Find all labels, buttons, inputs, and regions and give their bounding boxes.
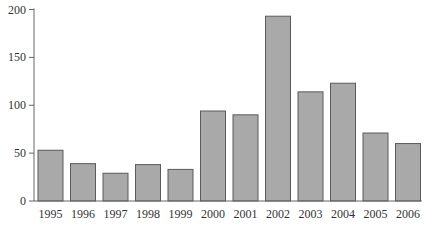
x-axis: 1995199619971998199920002001200220032004… bbox=[34, 201, 422, 221]
x-tick-label: 2003 bbox=[299, 207, 323, 221]
x-tick-label: 2000 bbox=[201, 207, 225, 221]
x-tick-label: 1996 bbox=[71, 207, 95, 221]
y-tick-label: 100 bbox=[8, 98, 26, 112]
bar-1996 bbox=[71, 164, 96, 201]
y-tick-label: 200 bbox=[8, 3, 26, 17]
bar-2005 bbox=[363, 133, 388, 201]
x-tick-label: 2004 bbox=[331, 207, 355, 221]
x-tick-label: 1999 bbox=[169, 207, 193, 221]
bar-1998 bbox=[136, 165, 161, 201]
bar-2000 bbox=[201, 111, 226, 201]
bar-1997 bbox=[103, 173, 128, 201]
x-tick-label: 1998 bbox=[136, 207, 160, 221]
bar-2004 bbox=[331, 83, 356, 201]
x-tick-label: 2001 bbox=[234, 207, 258, 221]
bar-1999 bbox=[168, 169, 193, 201]
x-tick-label: 2005 bbox=[364, 207, 388, 221]
x-tick-label: 2002 bbox=[266, 207, 290, 221]
bar-1995 bbox=[38, 150, 63, 201]
bars bbox=[38, 16, 421, 201]
bar-chart: 050100150200 199519961997199819992000200… bbox=[0, 0, 428, 227]
bar-2006 bbox=[396, 144, 421, 201]
x-tick-label: 2006 bbox=[396, 207, 420, 221]
bar-2003 bbox=[298, 92, 323, 201]
x-tick-label: 1997 bbox=[104, 207, 128, 221]
bar-2001 bbox=[233, 115, 258, 201]
y-tick-label: 0 bbox=[20, 194, 26, 208]
y-tick-label: 150 bbox=[8, 50, 26, 64]
y-tick-label: 50 bbox=[14, 146, 26, 160]
bar-2002 bbox=[266, 16, 291, 201]
y-axis: 050100150200 bbox=[8, 3, 34, 209]
x-tick-label: 1995 bbox=[39, 207, 63, 221]
